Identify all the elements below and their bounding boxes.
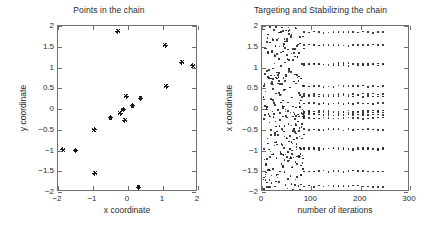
data-point-marker — [287, 160, 289, 162]
data-point-marker — [122, 118, 127, 123]
data-point-marker — [303, 95, 305, 97]
data-point-marker — [323, 64, 325, 66]
data-point-marker — [382, 44, 384, 46]
data-point-marker — [290, 71, 292, 73]
data-point-marker — [357, 32, 359, 34]
data-point-marker — [300, 148, 302, 150]
data-point-marker — [352, 170, 354, 172]
data-point-marker — [352, 31, 354, 33]
data-point-marker — [115, 29, 120, 34]
y-tick-mark-right — [192, 130, 196, 131]
data-point-marker — [301, 123, 303, 125]
y-tick-mark-right — [404, 192, 408, 193]
data-point-marker — [328, 32, 330, 34]
data-point-marker — [263, 85, 265, 87]
data-point-marker — [377, 114, 379, 116]
y-tick-mark-right — [192, 151, 196, 152]
data-point-marker — [275, 126, 277, 128]
data-point-marker — [323, 44, 325, 46]
data-point-marker — [274, 63, 276, 65]
data-point-marker — [288, 68, 290, 70]
data-point-marker — [282, 51, 284, 53]
data-point-marker — [273, 116, 275, 118]
data-point-marker — [300, 78, 302, 80]
data-point-marker — [285, 74, 287, 76]
data-point-marker — [276, 144, 278, 146]
data-point-marker — [279, 171, 281, 173]
data-point-marker — [308, 44, 310, 46]
right-plot-axes — [261, 25, 409, 191]
data-point-marker — [313, 113, 315, 115]
y-tick-mark — [58, 88, 62, 89]
data-point-marker — [382, 85, 384, 87]
data-point-marker — [348, 117, 350, 119]
data-point-marker — [270, 78, 272, 80]
data-point-marker — [266, 109, 268, 111]
data-point-marker — [295, 179, 297, 181]
data-point-marker — [367, 44, 369, 46]
data-point-marker — [303, 186, 305, 188]
data-point-marker — [274, 134, 276, 136]
data-point-marker — [352, 114, 354, 116]
data-point-marker — [265, 176, 267, 178]
data-point-marker — [265, 164, 267, 166]
x-tick-label: 1 — [160, 194, 164, 203]
data-point-marker — [362, 64, 364, 66]
x-tick-mark-top — [311, 26, 312, 30]
data-point-marker — [269, 26, 271, 28]
data-point-marker — [333, 44, 335, 46]
data-point-marker — [343, 171, 345, 173]
data-point-marker — [333, 185, 335, 187]
data-point-marker — [328, 171, 330, 173]
data-point-marker — [280, 31, 282, 33]
data-point-marker — [298, 52, 300, 54]
x-tick-mark — [128, 186, 129, 190]
data-point-marker — [302, 162, 304, 164]
y-tick-mark-right — [404, 130, 408, 131]
data-point-marker — [377, 149, 379, 151]
data-point-marker — [357, 85, 359, 87]
data-point-marker — [267, 138, 269, 140]
data-point-marker — [296, 149, 298, 151]
data-point-marker — [278, 80, 280, 82]
x-tick-mark-top — [198, 26, 199, 30]
data-point-marker — [282, 30, 284, 32]
data-point-marker — [269, 179, 271, 181]
data-point-marker — [266, 182, 268, 184]
y-tick-mark-right — [192, 68, 196, 69]
data-point-marker — [318, 103, 320, 105]
data-point-marker — [308, 171, 310, 173]
x-tick-mark-top — [128, 26, 129, 30]
data-point-marker — [357, 111, 359, 113]
data-point-marker — [357, 149, 359, 151]
y-tick-mark-right — [192, 26, 196, 27]
data-point-marker — [73, 148, 78, 153]
y-tick-mark — [58, 68, 62, 69]
data-point-marker — [121, 107, 126, 112]
data-point-marker — [367, 103, 369, 105]
y-tick-mark — [262, 88, 266, 89]
data-point-marker — [348, 185, 350, 187]
data-point-marker — [289, 160, 291, 162]
data-point-marker — [277, 74, 279, 76]
y-tick-label: 0.5 — [231, 83, 258, 92]
data-point-marker — [179, 60, 184, 65]
data-point-marker — [377, 65, 379, 67]
data-point-marker — [318, 114, 320, 116]
y-tick-mark-right — [404, 47, 408, 48]
x-tick-mark-top — [410, 26, 411, 30]
data-point-marker — [264, 114, 266, 116]
data-point-marker — [313, 102, 315, 104]
data-point-marker — [372, 171, 374, 173]
data-point-marker — [298, 156, 300, 158]
data-point-marker — [308, 32, 310, 34]
data-point-marker — [282, 166, 284, 168]
data-point-marker — [357, 129, 359, 131]
y-tick-mark-right — [192, 192, 196, 193]
x-tick-mark — [163, 186, 164, 190]
data-point-marker — [323, 112, 325, 114]
data-point-marker — [372, 114, 374, 116]
data-point-marker — [295, 83, 297, 85]
data-point-marker — [273, 84, 275, 86]
data-point-marker — [269, 186, 271, 188]
